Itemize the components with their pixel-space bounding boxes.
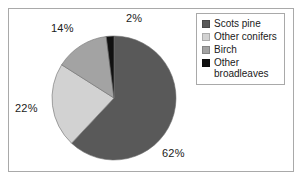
legend-swatch-icon-other-conifers [202,33,210,41]
legend-item-scots-pine: Scots pine [202,18,280,29]
legend: Scots pine Other conifers Birch Other br… [196,13,285,85]
legend-label-other-broadleaves: Other broadleaves [214,57,268,79]
slice-label-other-conifers: 22% [15,102,38,114]
legend-label-birch: Birch [214,44,237,55]
chart-frame: 62% 22% 14% 2% Scots pine Other conifers… [8,8,294,172]
slice-label-birch: 14% [51,22,74,34]
legend-label-other-conifers: Other conifers [214,31,277,42]
legend-item-birch: Birch [202,44,280,55]
legend-item-other-conifers: Other conifers [202,31,280,42]
legend-label-scots-pine: Scots pine [214,18,261,29]
legend-swatch-icon-scots-pine [202,20,210,28]
slice-label-other-broadleaves: 2% [126,12,142,24]
legend-swatch-icon-other-broadleaves [202,59,210,67]
slice-label-scots-pine: 62% [162,147,185,159]
legend-item-other-broadleaves: Other broadleaves [202,57,280,79]
pie-slice-group [52,36,176,160]
legend-swatch-icon-birch [202,46,210,54]
